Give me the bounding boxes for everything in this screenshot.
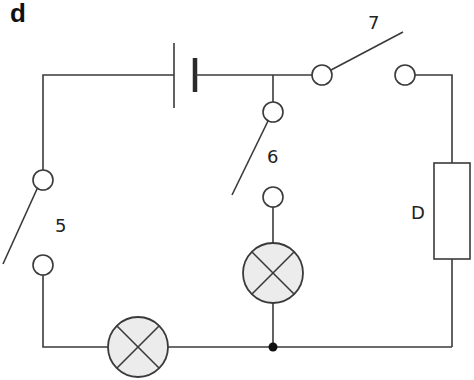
switch-5-icon (3, 170, 53, 275)
lamp-2-icon (243, 243, 303, 303)
switch-7-icon (312, 32, 415, 85)
switch-7-label: 7 (368, 14, 379, 32)
circuit-diagram (0, 0, 474, 380)
switch-6-label: 6 (267, 148, 278, 166)
wire-top-left (43, 75, 174, 170)
battery-icon (174, 43, 195, 108)
lamp-1-icon (108, 317, 168, 377)
component-d-label: D (411, 204, 425, 222)
junction-node-icon (269, 343, 278, 352)
wire-top-middle (195, 75, 312, 102)
switch-5-label: 5 (55, 217, 66, 235)
resistor-d-icon (434, 163, 470, 259)
